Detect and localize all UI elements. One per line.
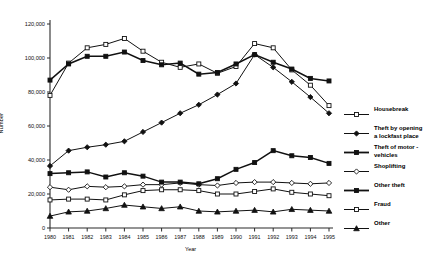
legend-marker-open-square-icon — [343, 201, 370, 212]
data-point-marker — [85, 197, 89, 201]
data-point-marker — [85, 170, 89, 174]
data-point-marker — [104, 54, 108, 58]
data-point-marker — [197, 62, 201, 66]
data-point-marker — [253, 161, 257, 165]
y-tick-label: 100,000 — [25, 55, 45, 61]
data-point-marker — [67, 197, 71, 201]
series-line — [50, 151, 329, 184]
data-point-marker — [290, 190, 294, 194]
data-point-marker — [233, 81, 238, 86]
data-point-marker — [66, 187, 71, 192]
legend-item[interactable]: Fraud — [343, 201, 444, 218]
data-point-marker — [253, 189, 257, 193]
data-series — [47, 36, 332, 218]
data-point-marker — [290, 154, 294, 158]
y-tick-label: 20,000 — [28, 191, 45, 197]
data-point-marker — [85, 54, 89, 58]
data-point-marker — [159, 120, 164, 125]
legend-item[interactable]: Theft by opening a lockfast place — [343, 125, 444, 142]
data-point-marker — [215, 70, 219, 74]
legend-marker-filled-square-icon — [343, 182, 370, 193]
data-point-marker — [47, 185, 52, 190]
data-point-marker — [354, 169, 359, 174]
data-point-marker — [215, 177, 219, 181]
legend-marker-filled-square-icon — [343, 144, 370, 155]
data-point-marker — [140, 182, 145, 187]
series-line — [50, 38, 329, 105]
data-point-marker — [85, 145, 90, 150]
data-point-marker — [141, 174, 145, 178]
y-tick-label: 40,000 — [28, 157, 45, 163]
data-point-marker — [103, 185, 108, 190]
x-tick-label: 1983 — [100, 234, 112, 240]
data-point-marker — [67, 62, 71, 66]
data-point-marker — [327, 79, 331, 83]
data-point-marker — [160, 63, 164, 67]
x-tick-label: 1990 — [230, 234, 242, 240]
data-point-marker — [234, 167, 238, 171]
legend-marker-open-diamond-icon — [343, 163, 370, 174]
data-point-marker — [290, 67, 294, 71]
x-tick-label: 1986 — [156, 234, 168, 240]
data-point-marker — [271, 60, 275, 64]
legend-item[interactable]: Other — [343, 220, 444, 237]
data-point-marker — [122, 139, 127, 144]
data-point-marker — [196, 102, 201, 107]
legend-item[interactable]: Other theft — [343, 182, 444, 199]
data-point-marker — [178, 65, 182, 69]
data-point-marker — [178, 61, 182, 65]
data-point-marker — [233, 180, 238, 185]
data-point-marker — [289, 180, 294, 185]
legend-marker-filled-triangle-icon — [343, 220, 370, 231]
data-point-marker — [308, 76, 312, 80]
series-line — [50, 189, 329, 200]
data-point-marker — [308, 83, 312, 87]
data-point-marker — [215, 92, 220, 97]
data-point-marker — [327, 104, 331, 108]
data-point-marker — [48, 172, 52, 176]
data-point-marker — [160, 180, 164, 184]
data-point-marker — [253, 42, 257, 46]
y-axis-title: Number — [0, 113, 4, 134]
series-other-theft — [48, 149, 331, 186]
data-point-marker — [234, 192, 238, 196]
data-point-marker — [104, 198, 108, 202]
legend-item[interactable]: Shoplifting — [343, 163, 444, 180]
data-point-marker — [178, 111, 183, 116]
data-point-marker — [197, 182, 201, 186]
data-point-marker — [327, 161, 331, 165]
y-tick-label: 120,000 — [25, 21, 45, 27]
legend-label: Theft of motor - vehicles — [370, 144, 418, 159]
data-point-marker — [122, 50, 126, 54]
data-point-marker — [271, 149, 275, 153]
x-tick-label: 1982 — [81, 234, 93, 240]
data-point-marker — [308, 155, 312, 159]
y-tick-label: 60,000 — [28, 123, 45, 129]
x-tick-label: 1981 — [63, 234, 75, 240]
series-line — [50, 205, 329, 216]
data-point-marker — [354, 131, 359, 136]
data-point-marker — [85, 184, 90, 189]
y-tick-label: 0 — [42, 225, 45, 231]
data-point-marker — [48, 198, 52, 202]
x-tick-label: 1993 — [286, 234, 298, 240]
legend-item[interactable]: Housebreak — [343, 106, 444, 123]
data-point-marker — [178, 188, 182, 192]
data-point-marker — [122, 171, 126, 175]
data-point-marker — [160, 188, 164, 192]
series-line — [50, 52, 329, 81]
x-tick-label: 1980 — [44, 234, 56, 240]
series-housebreak — [48, 36, 331, 107]
data-point-marker — [271, 180, 276, 185]
x-tick-label: 1988 — [193, 234, 205, 240]
data-point-marker — [355, 208, 359, 212]
data-point-marker — [197, 72, 201, 76]
data-point-marker — [103, 142, 108, 147]
data-point-marker — [326, 180, 331, 185]
data-point-marker — [215, 183, 220, 188]
x-tick-label: 1991 — [249, 234, 261, 240]
y-tick-label: 80,000 — [28, 89, 45, 95]
legend-item[interactable]: Theft of motor - vehicles — [343, 144, 444, 161]
legend-label: Fraud — [370, 201, 391, 209]
x-tick-label: 1995 — [323, 234, 335, 240]
